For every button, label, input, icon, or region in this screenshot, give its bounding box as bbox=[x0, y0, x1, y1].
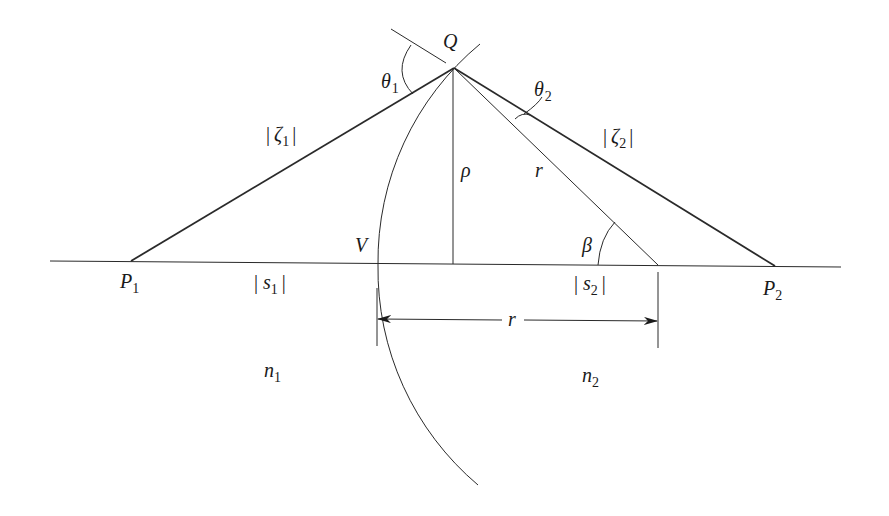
refracted-ray-zeta2 bbox=[454, 68, 775, 266]
label-r-dimension: r bbox=[508, 308, 516, 330]
incident-ray-zeta1 bbox=[131, 68, 454, 261]
label-P1: P1 bbox=[119, 270, 139, 296]
theta1-angle-arc bbox=[402, 45, 413, 94]
label-theta2: θ2 bbox=[534, 78, 552, 104]
label-beta: β bbox=[581, 234, 592, 257]
label-r-radius: r bbox=[535, 159, 543, 181]
dim-line-left bbox=[378, 319, 502, 320]
label-zeta2: |ζ2| bbox=[603, 125, 633, 151]
label-theta1: θ1 bbox=[381, 70, 399, 96]
radius-line bbox=[454, 68, 658, 265]
theta2-angle-arc bbox=[515, 114, 530, 119]
label-V: V bbox=[355, 234, 370, 256]
beta-angle-arc bbox=[598, 222, 615, 265]
normal-line bbox=[391, 29, 446, 63]
optical-axis bbox=[50, 261, 841, 267]
label-P2: P2 bbox=[762, 277, 782, 303]
label-Q: Q bbox=[443, 30, 458, 52]
label-n2: n2 bbox=[582, 364, 599, 390]
refraction-diagram: Q θ1 θ2 |ζ1| |ζ2| ρ r β V P1 P2 |s1| |s2… bbox=[0, 0, 889, 516]
label-zeta1: |ζ1| bbox=[266, 123, 296, 149]
label-s2: |s2| bbox=[574, 272, 606, 298]
dim-line-right bbox=[524, 320, 657, 321]
label-rho: ρ bbox=[460, 159, 471, 182]
label-n1: n1 bbox=[264, 359, 281, 385]
label-s1: |s1| bbox=[254, 271, 286, 297]
